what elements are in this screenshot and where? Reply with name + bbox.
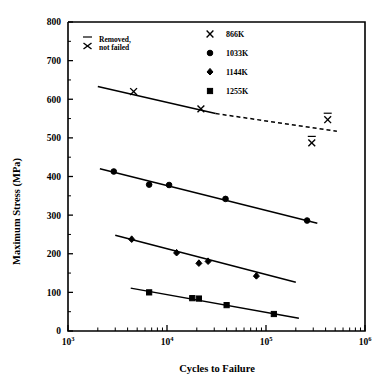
data-point — [223, 196, 229, 202]
x-axis-title-text: Cycles to Failure — [179, 363, 255, 374]
legend-label: 1255K — [226, 87, 249, 96]
y-axis-title-text: Maximum Stress (MPa) — [11, 157, 23, 265]
y-tick-label: 400 — [47, 172, 62, 182]
y-tick-label: 700 — [47, 56, 62, 66]
note-line-2: not failed — [99, 43, 130, 52]
legend-label: 866K — [226, 30, 245, 39]
data-point — [224, 303, 229, 308]
data-point — [196, 296, 201, 301]
legend-marker-circle-icon — [207, 50, 213, 56]
y-axis-title: Maximum Stress (MPa) — [11, 157, 23, 265]
y-tick-label: 300 — [47, 211, 62, 221]
data-point — [146, 182, 152, 188]
y-tick-label: 100 — [47, 288, 62, 298]
data-point — [271, 311, 276, 316]
y-tick-label: 800 — [47, 17, 62, 27]
legend-marker-square-icon — [207, 88, 212, 93]
y-tick-label: 0 — [56, 326, 61, 336]
data-point — [304, 218, 310, 224]
y-tick-label: 200 — [47, 249, 62, 259]
data-point — [190, 296, 195, 301]
y-tick-label: 500 — [47, 133, 62, 143]
data-point — [111, 169, 117, 175]
data-point — [147, 290, 152, 295]
chart-figure: Maximum Stress (MPa) Cycles to Failure 0… — [0, 0, 388, 387]
maximum-stress-vs-cycles-chart: Maximum Stress (MPa) Cycles to Failure 0… — [0, 0, 388, 387]
x-axis-title: Cycles to Failure — [179, 363, 255, 374]
y-tick-label: 600 — [47, 95, 62, 105]
legend-label: 1033K — [226, 49, 249, 58]
legend-label: 1144K — [226, 68, 249, 77]
data-point — [166, 182, 172, 188]
